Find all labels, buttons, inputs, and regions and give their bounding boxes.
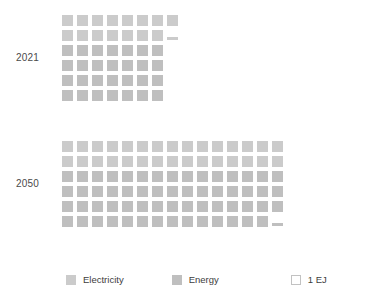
waffle-cell [227, 186, 238, 197]
waffle-cell [137, 156, 148, 167]
waffle-cell [122, 45, 133, 56]
waffle-cell [137, 15, 148, 26]
legend-item-unit[interactable]: 1 EJ [291, 275, 327, 285]
waffle-cell [62, 141, 73, 152]
legend-label-energy: Energy [189, 275, 219, 285]
waffle-cell [92, 90, 103, 101]
waffle-cell [107, 201, 118, 212]
waffle-cell [77, 141, 88, 152]
waffle-cell [77, 15, 88, 26]
waffle-cell [122, 171, 133, 182]
waffle-chart: 2021 2050 Electricity Energy 1 EJ [0, 0, 380, 304]
waffle-cell [137, 60, 148, 71]
waffle-cell [242, 216, 253, 227]
waffle-cell [152, 75, 163, 86]
legend-label-unit: 1 EJ [308, 275, 327, 285]
waffle-cell [77, 201, 88, 212]
waffle-row [62, 186, 380, 197]
waffle-row [62, 60, 380, 71]
waffle-cell [182, 156, 193, 167]
waffle-cell [227, 216, 238, 227]
waffle-cell [92, 171, 103, 182]
waffle-cell [242, 201, 253, 212]
waffle-cell [137, 171, 148, 182]
waffle-cell [107, 141, 118, 152]
waffle-cell [152, 216, 163, 227]
waffle-cell [107, 75, 118, 86]
waffle-cell [152, 90, 163, 101]
waffle-cell [212, 216, 223, 227]
waffle-cell [212, 201, 223, 212]
waffle-cell [152, 141, 163, 152]
waffle-cell [257, 186, 268, 197]
waffle-cell [212, 186, 223, 197]
waffle-cell [152, 45, 163, 56]
waffle-cell [137, 90, 148, 101]
waffle-cell [197, 156, 208, 167]
waffle-cell [62, 201, 73, 212]
waffle-cell [137, 216, 148, 227]
waffle-row [62, 30, 380, 41]
waffle-cell [197, 216, 208, 227]
waffle-cell [122, 60, 133, 71]
waffle-cell [92, 216, 103, 227]
waffle-cell [152, 30, 163, 41]
waffle-cell [242, 171, 253, 182]
waffle-cell [152, 60, 163, 71]
legend-item-energy[interactable]: Energy [172, 275, 219, 285]
waffle-cell [62, 186, 73, 197]
waffle-cell [107, 60, 118, 71]
waffle-cell [122, 186, 133, 197]
waffle-cell [212, 156, 223, 167]
waffle-cell [152, 156, 163, 167]
legend-swatch-energy-icon [172, 275, 182, 285]
waffle-cell [272, 171, 283, 182]
legend-item-electricity[interactable]: Electricity [66, 275, 124, 285]
waffle-cell [167, 171, 178, 182]
waffle-cell [167, 141, 178, 152]
waffle-cell [77, 216, 88, 227]
waffle-cell [107, 156, 118, 167]
waffle-cell [122, 216, 133, 227]
waffle-cell [137, 45, 148, 56]
waffle-cell [137, 30, 148, 41]
waffle-cell [92, 30, 103, 41]
waffle-cell [122, 30, 133, 41]
waffle-cell [167, 156, 178, 167]
waffle-group-2021: 2021 [0, 8, 380, 108]
legend-label-electricity: Electricity [83, 275, 124, 285]
waffle-cell [62, 216, 73, 227]
waffle-cell [107, 186, 118, 197]
waffle-cell [62, 90, 73, 101]
waffle-cell [167, 186, 178, 197]
waffle-cell [92, 15, 103, 26]
waffle-cell [242, 141, 253, 152]
waffle-cell [197, 141, 208, 152]
waffle-cell [77, 60, 88, 71]
waffle-cell [107, 45, 118, 56]
waffle-cell [62, 156, 73, 167]
waffle-cell [257, 216, 268, 227]
waffle-cell [137, 201, 148, 212]
waffle-cell [257, 141, 268, 152]
group-label-2050: 2050 [0, 179, 62, 189]
waffle-cell [227, 156, 238, 167]
waffle-grid-2021 [62, 15, 380, 101]
waffle-cell [92, 60, 103, 71]
waffle-cell [77, 171, 88, 182]
waffle-cell [62, 171, 73, 182]
waffle-cell [212, 141, 223, 152]
waffle-row [62, 201, 380, 212]
waffle-cell [197, 171, 208, 182]
legend-swatch-electricity-icon [66, 275, 76, 285]
waffle-cell [92, 201, 103, 212]
waffle-cell [122, 15, 133, 26]
waffle-row [62, 171, 380, 182]
waffle-cell [272, 156, 283, 167]
waffle-cell [242, 156, 253, 167]
waffle-cell [92, 156, 103, 167]
waffle-row [62, 45, 380, 56]
waffle-cell [257, 156, 268, 167]
waffle-cell [62, 60, 73, 71]
waffle-row [62, 216, 380, 227]
